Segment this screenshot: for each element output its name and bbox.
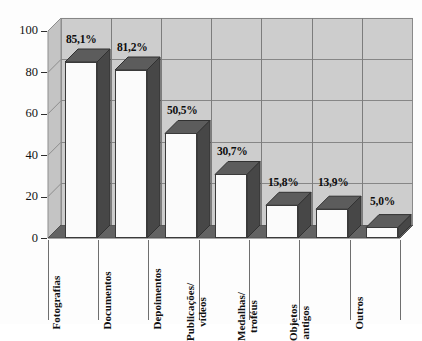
bar-medalhas-trofeus[interactable] — [266, 205, 298, 238]
data-label-outros: 5,0% — [370, 195, 395, 207]
xlabel-publicacoes-line2: vídeos — [197, 283, 209, 341]
xsep-6 — [350, 240, 351, 320]
data-label-publicacoes-videos: 30,7% — [217, 145, 248, 157]
gridline-80 — [61, 59, 413, 60]
gridline-cat-3 — [211, 18, 212, 225]
gridline-cat-6 — [362, 18, 363, 225]
xlabel-objetos-line1: Objetos — [288, 304, 300, 341]
bar-depoimentos[interactable] — [165, 133, 197, 238]
xlabel-fotografias: Fotografias — [51, 276, 63, 330]
ytick-label-40: 40 — [4, 148, 38, 163]
ytick-mark-0 — [41, 238, 47, 239]
ytick-mark-80 — [41, 72, 47, 73]
xlabel-outros: Outros — [354, 297, 366, 330]
ytick-mark-20 — [41, 197, 47, 198]
data-label-medalhas-trofeus: 15,8% — [268, 176, 299, 188]
ytick-label-100: 100 — [4, 23, 38, 38]
gridline-cat-5 — [312, 18, 313, 225]
ytick-mark-60 — [41, 114, 47, 115]
xlabel-publicacoes-videos: Publicações/ vídeos — [185, 283, 208, 341]
xlabel-objetos-antigos: Objetos antigos — [288, 304, 311, 341]
ytick-label-20: 20 — [4, 189, 38, 204]
ytick-mark-100 — [41, 31, 47, 32]
gridline-60 — [61, 100, 413, 101]
ytick-mark-40 — [41, 155, 47, 156]
data-label-objetos-antigos: 13,9% — [318, 176, 349, 188]
gridline-cat-1 — [111, 18, 112, 225]
xlabel-medalhas-line1: Medalhas/ — [236, 292, 248, 341]
bar-publicacoes-videos[interactable] — [215, 174, 247, 238]
data-label-documentos: 81,2% — [117, 41, 148, 53]
ytick-label-60: 60 — [4, 106, 38, 121]
gridline-40 — [61, 142, 413, 143]
xlabel-objetos-line2: antigos — [300, 304, 312, 341]
data-label-fotografias: 85,1% — [66, 33, 97, 45]
ytick-label-0: 0 — [4, 231, 38, 246]
xlabel-medalhas-line2: troféus — [248, 292, 260, 341]
xlabel-depoimentos: Depoimentos — [152, 268, 164, 329]
xlabel-medalhas-trofeus: Medalhas/ troféus — [236, 292, 259, 341]
xsep-7 — [400, 240, 401, 320]
xsep-2 — [148, 240, 149, 320]
xlabel-publicacoes-line1: Publicações/ — [185, 283, 197, 341]
gridline-100 — [61, 18, 413, 19]
bar-fotografias[interactable] — [65, 62, 97, 238]
bar-outros[interactable] — [366, 227, 398, 238]
data-label-depoimentos: 50,5% — [167, 104, 198, 116]
gridline-cat-4 — [261, 18, 262, 225]
bar-documentos[interactable] — [115, 70, 147, 238]
xlabel-documentos: Documentos — [102, 271, 114, 329]
gridline-cat-2 — [161, 18, 162, 225]
bar-objetos-antigos[interactable] — [316, 209, 348, 238]
xsep-1 — [98, 240, 99, 320]
ytick-label-80: 80 — [4, 65, 38, 80]
left-side-wall — [48, 18, 61, 238]
